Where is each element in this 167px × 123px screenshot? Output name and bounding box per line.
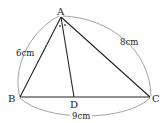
label-c: C xyxy=(152,93,160,104)
side-ac xyxy=(61,17,150,97)
label-b: B xyxy=(8,93,15,104)
measure-ab: 6cm xyxy=(16,48,34,58)
triangle-diagram: A B C D 6cm 8cm 9cm xyxy=(0,0,167,123)
angle-mark-right xyxy=(64,24,66,26)
measure-bc: 9cm xyxy=(72,111,90,121)
label-d: D xyxy=(70,99,78,110)
measure-ac: 8cm xyxy=(120,37,138,47)
arc-ac xyxy=(63,16,151,96)
label-a: A xyxy=(56,6,65,17)
angle-mark-left xyxy=(59,25,61,27)
segment-ad xyxy=(61,17,74,97)
